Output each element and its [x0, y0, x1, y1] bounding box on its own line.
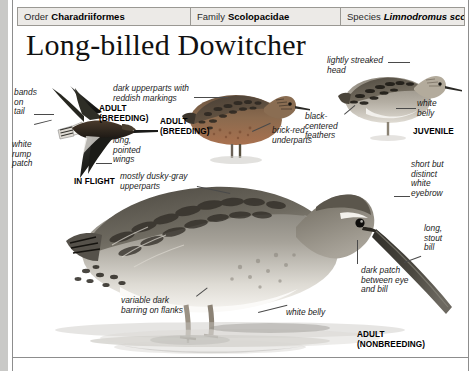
plate-label-adult-breeding: ADULT (BREEDING) [160, 117, 210, 137]
annotation-bands-on-tail: bands on tail [14, 88, 44, 117]
taxonomy-family-key: Family [197, 11, 225, 22]
annotation-mostly-dusky-gray: mostly dusky-gray upperparts [120, 172, 202, 191]
annotation-white-rump-patch: white rump patch [12, 140, 46, 169]
page-title: Long-billed Dowitcher [26, 28, 306, 62]
leader-white-belly-juvenile [396, 108, 416, 109]
plate-label-adult-nonbreeding: ADULT (NONBREEDING) [357, 330, 425, 350]
annotation-long-pointed-wings: long, pointed wings [113, 136, 157, 165]
taxonomy-species-value: Limnodromus scolopaceus [384, 11, 464, 22]
leader-dark-patch [357, 240, 358, 264]
leader-white-eyebrow [394, 196, 410, 197]
taxonomy-bar: Order Charadriiformes Family Scolopacida… [17, 7, 465, 26]
taxonomy-species-cell: Species Limnodromus scolopaceus [340, 8, 464, 25]
annotation-white-belly-juvenile: white belly [417, 99, 451, 118]
annotation-lightly-streaked-head: lightly streaked head [327, 56, 395, 75]
taxonomy-order-cell: Order Charadriiformes [18, 8, 190, 25]
plate-label-in-flight-age: ADULT (BREEDING) [99, 104, 149, 124]
taxonomy-species-key: Species [347, 11, 381, 22]
annotation-long-stout-bill: long, stout bill [424, 224, 458, 253]
annotation-dark-upperparts: dark upperparts with reddish markings [113, 84, 205, 103]
annotation-white-eyebrow: short but distinct white eyebrow [411, 160, 463, 198]
taxonomy-order-key: Order [24, 11, 48, 22]
plate-label-juvenile: JUVENILE [413, 127, 454, 137]
annotation-dark-patch: dark patch between eye and bill [361, 266, 419, 295]
page-border-left [12, 0, 13, 371]
taxonomy-order-value: Charadriiformes [51, 11, 124, 22]
page-border-right [468, 0, 469, 371]
leader-long-pointed-wings [96, 163, 112, 164]
field-guide-page: Order Charadriiformes Family Scolopacida… [0, 0, 474, 371]
plate-label-in-flight: IN FLIGHT [74, 177, 115, 187]
taxonomy-family-value: Scolopacidae [228, 11, 289, 22]
annotation-black-centered-feathers: black- centered feathers [305, 112, 345, 141]
taxonomy-family-cell: Family Scolopacidae [190, 8, 340, 25]
annotation-white-belly-adult: white belly [286, 308, 342, 318]
annotation-variable-dark-barring: variable dark barring on flanks [121, 296, 199, 315]
